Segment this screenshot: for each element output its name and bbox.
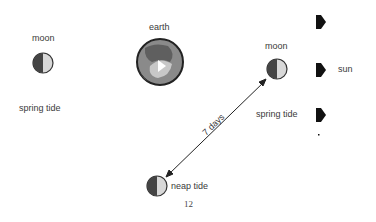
moon-left-label: moon (32, 33, 55, 43)
moon-neap-icon (147, 176, 167, 196)
page-number: 12 (184, 199, 193, 209)
spring-tide-right-label: spring tide (256, 109, 298, 119)
interval-label: 7 days (200, 111, 226, 137)
earth-icon (137, 39, 183, 85)
earth-label: earth (149, 22, 170, 32)
moon-right-label: moon (265, 41, 288, 51)
sun-rays-icon (316, 15, 326, 136)
moon-left-icon (33, 53, 53, 73)
sun-label: sun (338, 64, 353, 74)
spring-tide-left-label: spring tide (19, 103, 61, 113)
moon-right-icon (267, 59, 287, 79)
neap-tide-label: neap tide (171, 181, 208, 191)
